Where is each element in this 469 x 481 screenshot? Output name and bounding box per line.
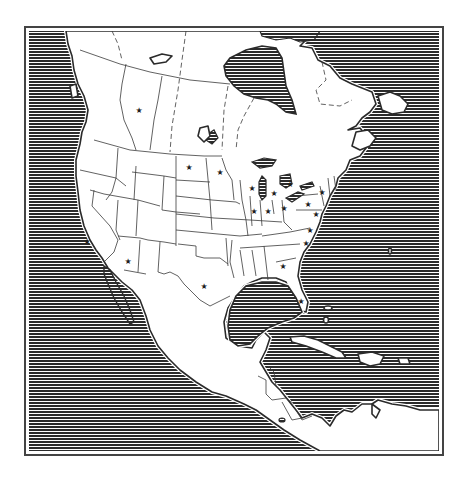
star-icon: ★ [83,237,90,246]
star-icon: ★ [280,204,287,213]
bahamas-1 [324,306,332,310]
lake-michigan [259,176,266,200]
star-icon: ★ [279,262,286,271]
star-icon: ★ [264,207,271,216]
star-icon: ★ [302,239,309,248]
star-icon: ★ [304,200,311,209]
map-canvas: ★ ★ ★ ★ ★ ★ ★ ★ ★ ★ ★ ★ ★ ★ ★ ★ ★ ★ ★ [0,0,469,481]
star-icon: ★ [216,168,223,177]
star-icon: ★ [297,297,304,306]
star-icon: ★ [318,188,325,197]
star-icon: ★ [200,282,207,291]
north-america-map: ★ ★ ★ ★ ★ ★ ★ ★ ★ ★ ★ ★ ★ ★ ★ ★ ★ ★ ★ No… [0,0,469,481]
star-icon: ★ [306,226,313,235]
puerto-rico [398,358,410,364]
bahamas-2 [324,317,329,323]
star-icon: ★ [248,184,255,193]
lake-nicaragua [279,418,285,422]
star-icon: ★ [135,106,142,115]
vancouver-island [70,84,78,98]
star-icon: ★ [250,207,257,216]
star-icon: ★ [286,180,293,189]
star-icon: ★ [124,257,131,266]
bermuda [389,248,392,254]
star-icon: ★ [312,210,319,219]
star-icon: ★ [185,163,192,172]
star-icon: ★ [270,189,277,198]
